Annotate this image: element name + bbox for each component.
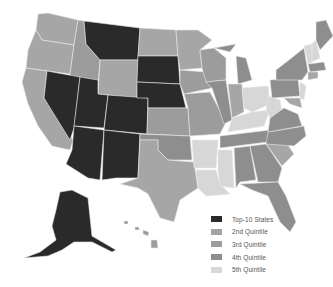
state-alaska	[24, 190, 116, 258]
state-kansas	[147, 108, 190, 136]
legend-item-3rd-quintile: 3rd Quintile	[211, 238, 273, 251]
legend-swatch	[211, 229, 222, 235]
legend-label: 4th Quintile	[232, 254, 266, 261]
legend-label: 2nd Quintile	[232, 228, 268, 235]
state-maryland	[284, 98, 302, 108]
state-arkansas	[192, 140, 218, 168]
legend-item-2nd-quintile: 2nd Quintile	[211, 226, 273, 239]
us-choropleth-map	[0, 0, 333, 287]
state-colorado	[104, 95, 148, 134]
state-pennsylvania	[270, 78, 300, 98]
legend-swatch	[211, 267, 222, 273]
state-north-dakota	[138, 28, 178, 56]
state-new-york	[276, 48, 308, 80]
state-maine	[316, 20, 333, 50]
legend-item-5th-quintile: 5th Quintile	[211, 263, 273, 276]
state-massachusetts	[308, 62, 326, 72]
state-connecticut	[308, 72, 318, 80]
legend-item-top10: Top-10 States	[211, 213, 273, 226]
legend-swatch	[211, 216, 222, 222]
state-mississippi	[218, 150, 234, 188]
legend-label: 5th Quintile	[232, 266, 266, 273]
legend-swatch	[211, 241, 222, 247]
state-hawaii	[124, 221, 158, 248]
legend-label: Top-10 States	[232, 216, 273, 223]
legend-label: 3rd Quintile	[232, 241, 266, 248]
state-south-dakota	[137, 56, 180, 84]
legend-item-4th-quintile: 4th Quintile	[211, 251, 273, 264]
state-wyoming	[98, 60, 138, 98]
legend: Top-10 States 2nd Quintile 3rd Quintile …	[211, 213, 273, 276]
state-ohio	[242, 86, 270, 112]
legend-swatch	[211, 254, 222, 260]
state-new-mexico	[102, 130, 140, 180]
state-new-jersey	[300, 82, 306, 100]
